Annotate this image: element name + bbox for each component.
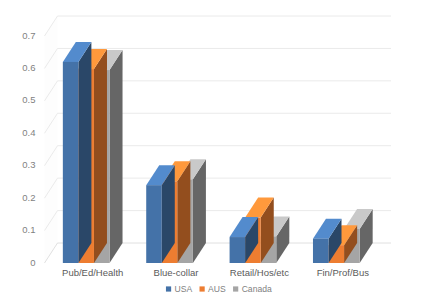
legend-label-aus: AUS <box>208 284 226 294</box>
category-label-0: Pub/Ed/Health <box>62 267 123 278</box>
y-tick-label: 0.6 <box>22 62 35 73</box>
y-tick-label: 0.2 <box>22 192 35 203</box>
bar-front-face <box>63 62 79 263</box>
chart-container: 00.10.20.30.40.50.60.7Pub/Ed/HealthBlue-… <box>0 0 422 305</box>
category-label-1: Blue-collar <box>154 267 199 278</box>
chart-legend: USAAUSCanada <box>166 284 272 294</box>
bar-side-face <box>78 42 91 263</box>
category-label-2: Retail/Hos/etc <box>230 267 289 278</box>
legend-label-canada: Canada <box>242 284 272 294</box>
bar-side-face <box>110 50 123 263</box>
x-axis-labels: Pub/Ed/HealthBlue-collarRetail/Hos/etcFi… <box>62 267 369 278</box>
y-tick-label: 0 <box>30 257 35 268</box>
legend-label-usa: USA <box>175 284 193 294</box>
legend-swatch-usa <box>166 286 171 291</box>
y-tick-label: 0.5 <box>22 94 35 105</box>
legend-swatch-aus <box>200 286 205 291</box>
bar-front-face <box>313 239 329 263</box>
bar-chart-3d: 00.10.20.30.40.50.60.7Pub/Ed/HealthBlue-… <box>0 0 422 305</box>
y-tick-label: 0.4 <box>22 127 35 138</box>
bar-side-face <box>94 49 107 263</box>
y-axis-labels: 00.10.20.30.40.50.60.7 <box>22 30 35 268</box>
y-tick-label: 0.3 <box>22 159 35 170</box>
bar-usa-0 <box>63 42 92 263</box>
bar-front-face <box>146 185 162 263</box>
y-tick-label: 0.7 <box>22 30 35 41</box>
bar-usa-1 <box>146 165 175 263</box>
plot-side-wall <box>45 16 58 263</box>
bar-front-face <box>230 237 246 263</box>
legend-swatch-canada <box>233 286 238 291</box>
y-tick-label: 0.1 <box>22 224 35 235</box>
category-label-3: Fin/Prof/Bus <box>317 267 370 278</box>
